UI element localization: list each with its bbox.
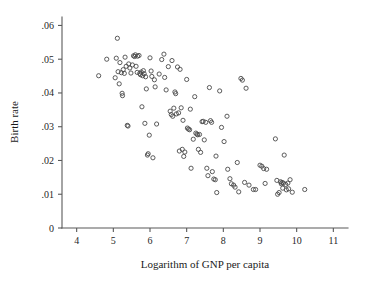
plot-canvas: 0.01.02.03.04.05.06 4567891011 Logarithm… [0, 0, 367, 286]
x-tick-label: 6 [148, 235, 153, 246]
data-point [129, 71, 133, 75]
data-point [206, 174, 210, 178]
x-axis-group: 4567891011 [62, 228, 348, 246]
data-point [152, 78, 156, 82]
y-tick-label: .02 [42, 155, 55, 166]
data-point [228, 177, 232, 181]
data-point [115, 36, 119, 40]
x-tick-label: 5 [111, 235, 116, 246]
data-point [172, 106, 176, 110]
x-tick-marks [77, 228, 334, 232]
data-point [199, 150, 203, 154]
data-point [247, 183, 251, 187]
data-point [162, 52, 166, 56]
data-point [226, 167, 230, 171]
x-tick-label: 7 [184, 235, 189, 246]
data-point [188, 107, 192, 111]
data-point [191, 137, 195, 141]
data-point [163, 75, 167, 79]
data-point [123, 55, 127, 59]
data-point [219, 125, 223, 129]
x-tick-label: 11 [329, 235, 339, 246]
x-axis-title: Logarithm of GNP per capita [141, 258, 270, 270]
y-tick-marks [58, 25, 62, 228]
data-point [182, 154, 186, 158]
data-point [157, 72, 161, 76]
data-point [202, 138, 206, 142]
y-tick-label: .01 [42, 189, 55, 200]
data-point [146, 152, 150, 156]
data-point [210, 170, 214, 174]
data-point [235, 160, 239, 164]
data-point [117, 82, 121, 86]
data-point [143, 121, 147, 125]
data-point [105, 57, 109, 61]
x-tick-label: 9 [258, 235, 263, 246]
y-tick-label: .04 [42, 87, 55, 98]
data-point [160, 57, 164, 61]
data-point [140, 105, 144, 109]
data-point [218, 89, 222, 93]
data-point [263, 181, 267, 185]
data-point [288, 178, 292, 182]
data-point [189, 166, 193, 170]
y-axis-title: Birth rate [8, 101, 20, 143]
data-point [225, 114, 229, 118]
data-point [181, 118, 185, 122]
data-point [214, 154, 218, 158]
data-point [282, 153, 286, 157]
y-axis-group: 0.01.02.03.04.05.06 [42, 17, 63, 234]
x-tick-label: 4 [74, 235, 79, 246]
y-tick-label: .06 [42, 20, 55, 31]
data-point [113, 76, 117, 80]
data-point [166, 65, 170, 69]
data-point [148, 56, 152, 60]
data-point [179, 106, 183, 110]
data-point [147, 133, 151, 137]
y-tick-label: 0 [49, 223, 54, 234]
data-point [118, 60, 122, 64]
data-point [215, 190, 219, 194]
data-point [185, 77, 189, 81]
data-point [134, 64, 138, 68]
data-point [273, 137, 277, 141]
data-point [151, 156, 155, 160]
data-point [149, 69, 153, 73]
y-tick-labels: 0.01.02.03.04.05.06 [42, 20, 55, 234]
data-point [207, 85, 211, 89]
data-point [183, 150, 187, 154]
x-tick-label: 10 [292, 235, 302, 246]
data-point [265, 167, 269, 171]
data-point [237, 190, 241, 194]
data-point [144, 87, 148, 91]
data-point [97, 74, 101, 78]
x-tick-labels: 4567891011 [74, 235, 338, 246]
data-point [114, 56, 118, 60]
data-point [222, 139, 226, 143]
data-point [205, 166, 209, 170]
data-point-markers [97, 36, 307, 196]
data-point [164, 88, 168, 92]
data-point [178, 67, 182, 71]
y-tick-label: .05 [42, 54, 55, 65]
data-point [303, 187, 307, 191]
scatter-plot-figure: 0.01.02.03.04.05.06 4567891011 Logarithm… [0, 0, 367, 286]
data-point [153, 85, 157, 89]
data-point [170, 58, 174, 62]
data-point [193, 95, 197, 99]
data-point [155, 122, 159, 126]
data-point [244, 86, 248, 90]
y-tick-label: .03 [42, 121, 55, 132]
x-tick-label: 8 [221, 235, 226, 246]
data-point [175, 65, 179, 69]
data-point [290, 190, 294, 194]
data-point [243, 180, 247, 184]
